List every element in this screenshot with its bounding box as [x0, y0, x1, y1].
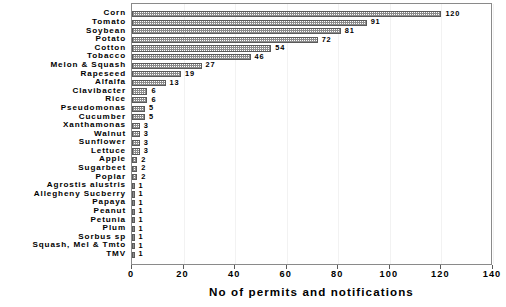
bar[interactable] — [132, 20, 367, 26]
bar-value-label: 120 — [445, 10, 460, 19]
bar[interactable] — [132, 243, 135, 249]
bar[interactable] — [132, 191, 135, 197]
bar-row[interactable]: 6 — [132, 88, 493, 97]
bar[interactable] — [132, 209, 135, 215]
bar-row[interactable]: 54 — [132, 45, 493, 54]
x-axis-tick-label: 0 — [128, 269, 134, 279]
bar-row[interactable]: 13 — [132, 79, 493, 88]
bar[interactable] — [132, 45, 271, 51]
x-axis-tick-label: 80 — [331, 269, 343, 279]
bar[interactable] — [132, 148, 140, 154]
x-axis-tick-label: 100 — [380, 269, 399, 279]
bar[interactable] — [132, 217, 135, 223]
x-axis-tick-label: 120 — [431, 269, 450, 279]
bar-row[interactable]: 1 — [132, 225, 493, 234]
bar[interactable] — [132, 28, 341, 34]
bar-row[interactable]: 2 — [132, 174, 493, 183]
bar-value-label: 72 — [322, 36, 332, 45]
bar[interactable] — [132, 54, 251, 60]
bar-row[interactable]: 1 — [132, 182, 493, 191]
bar[interactable] — [132, 252, 135, 258]
bar-row[interactable]: 6 — [132, 96, 493, 105]
bar[interactable] — [132, 200, 135, 206]
bar[interactable] — [132, 63, 202, 69]
bar-row[interactable]: 1 — [132, 191, 493, 200]
bar-value-label: 1 — [139, 250, 144, 259]
bar-row[interactable]: 81 — [132, 28, 493, 37]
x-axis-title: No of permits and notifications — [131, 285, 492, 298]
bar[interactable] — [132, 226, 135, 232]
bar[interactable] — [132, 80, 166, 86]
bar[interactable] — [132, 157, 137, 163]
bar[interactable] — [132, 71, 181, 77]
x-axis-tick-label: 40 — [228, 269, 240, 279]
bar[interactable] — [132, 166, 137, 172]
bar[interactable] — [132, 123, 140, 129]
x-axis-tick-label: 60 — [279, 269, 291, 279]
bar-value-label: 54 — [275, 44, 285, 53]
bar-row[interactable]: 1 — [132, 199, 493, 208]
bar[interactable] — [132, 114, 145, 120]
bar-row[interactable]: 1 — [132, 242, 493, 251]
bar[interactable] — [132, 183, 135, 189]
category-label: TMV — [0, 250, 126, 259]
bar-row[interactable]: 1 — [132, 251, 493, 260]
bar-value-label: 46 — [255, 53, 265, 62]
plot-area: 120918172544627191366553333222111111111 — [131, 3, 492, 265]
bar-row[interactable]: 2 — [132, 156, 493, 165]
bar[interactable] — [132, 37, 318, 43]
bar-row[interactable]: 3 — [132, 122, 493, 131]
bar-value-label: 27 — [206, 61, 216, 70]
x-axis-tick-label: 140 — [483, 269, 502, 279]
bar-row[interactable]: 1 — [132, 217, 493, 226]
bar-value-label: 81 — [345, 27, 355, 36]
bar-value-label: 5 — [149, 113, 154, 122]
bar-row[interactable]: 5 — [132, 114, 493, 123]
bar-row[interactable]: 3 — [132, 148, 493, 157]
bar-row[interactable]: 19 — [132, 71, 493, 80]
bar-row[interactable]: 3 — [132, 131, 493, 140]
bar-value-label: 91 — [371, 18, 381, 27]
bar[interactable] — [132, 131, 140, 137]
bar-row[interactable]: 2 — [132, 165, 493, 174]
bar-row[interactable]: 120 — [132, 10, 493, 19]
bar-row[interactable]: 3 — [132, 139, 493, 148]
bar-row[interactable]: 91 — [132, 19, 493, 28]
bar-row[interactable]: 46 — [132, 53, 493, 62]
bar[interactable] — [132, 106, 145, 112]
bar-row[interactable]: 1 — [132, 208, 493, 217]
x-axis-tick-labels: 020406080100120140 — [0, 269, 506, 283]
bar[interactable] — [132, 140, 140, 146]
bar-row[interactable]: 5 — [132, 105, 493, 114]
bar[interactable] — [132, 97, 147, 103]
bar[interactable] — [132, 88, 147, 94]
bar[interactable] — [132, 234, 135, 240]
bar-chart: CornTomatoSoybeanPotatoCottonTobaccoMelo… — [0, 0, 506, 307]
bars-layer: 120918172544627191366553333222111111111 — [132, 4, 491, 264]
bar[interactable] — [132, 174, 137, 180]
bar-value-label: 13 — [170, 79, 180, 88]
bar-value-label: 19 — [185, 70, 195, 79]
bar[interactable] — [132, 11, 441, 17]
gridline — [493, 4, 494, 264]
bar-row[interactable]: 72 — [132, 36, 493, 45]
x-axis-tick-label: 20 — [176, 269, 188, 279]
bar-row[interactable]: 1 — [132, 234, 493, 243]
category-axis-labels: CornTomatoSoybeanPotatoCottonTobaccoMelo… — [0, 3, 126, 265]
